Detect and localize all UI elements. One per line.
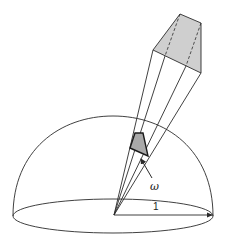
ray-4 — [114, 73, 201, 215]
radius-label: 1 — [153, 201, 159, 212]
hemisphere-dome — [13, 116, 213, 216]
omega-label: ω — [150, 180, 159, 193]
solid-angle-diagram: ω 1 — [0, 0, 227, 242]
ray-1 — [114, 50, 153, 215]
hemisphere-base — [13, 199, 213, 233]
